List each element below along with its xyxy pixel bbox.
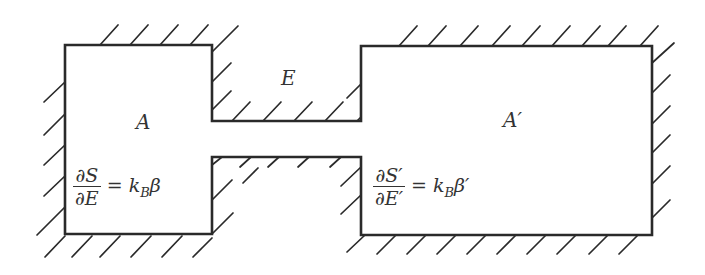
equation-left: ∂S ∂E = kBβ — [73, 164, 161, 209]
equals-sign: = — [411, 174, 427, 196]
diagram-canvas: A E A′ ∂S ∂E = kBβ ∂S′ ∂E′ = kBβ′ — [0, 0, 705, 275]
system-a-prime-label: A′ — [503, 108, 522, 132]
fraction-right: ∂S′ ∂E′ — [373, 164, 405, 209]
rhs-left: = kBβ — [107, 174, 161, 200]
beta-symbol: β — [150, 174, 161, 196]
energy-label: E — [281, 66, 296, 90]
numerator-right: ∂S′ — [373, 164, 404, 186]
beta-prime-symbol: β′ — [454, 174, 469, 196]
numerator-left: ∂S — [73, 164, 100, 186]
k-subscript: B — [140, 184, 150, 199]
hatching — [37, 25, 674, 257]
denominator-right: ∂E′ — [373, 186, 405, 209]
denominator-left: ∂E — [73, 186, 101, 209]
k-symbol: k — [129, 174, 141, 196]
fraction-left: ∂S ∂E — [73, 164, 101, 209]
equation-right: ∂S′ ∂E′ = kBβ′ — [373, 164, 469, 209]
k-subscript: B — [445, 184, 455, 199]
rhs-right: = kBβ′ — [411, 174, 469, 200]
k-symbol: k — [433, 174, 445, 196]
system-a-label: A — [136, 110, 150, 134]
equals-sign: = — [107, 174, 123, 196]
walls-graphic — [0, 0, 705, 275]
